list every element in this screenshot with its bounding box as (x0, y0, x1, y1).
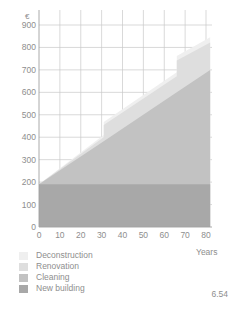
x-tick-label: 10 (55, 230, 64, 240)
x-axis-title: Years (196, 247, 217, 257)
y-tick-label: 400 (6, 132, 36, 142)
area-band-new-building (39, 184, 210, 227)
y-tick-label: 900 (6, 20, 36, 30)
y-tick-label: 300 (6, 155, 36, 165)
y-tick-label: 700 (6, 65, 36, 75)
legend-item: Renovation (19, 261, 93, 272)
legend-swatch-icon (19, 285, 28, 293)
x-tick-label: 40 (118, 230, 127, 240)
legend-item: Deconstruction (19, 250, 93, 261)
legend-item: New building (19, 283, 93, 294)
y-tick-label: 800 (6, 42, 36, 52)
figure-container: € 0100200300400500600700800900 010203040… (0, 0, 237, 311)
legend-label: Deconstruction (36, 250, 93, 261)
x-axis-ticks: 01020304050607080 (0, 230, 237, 244)
plot-area: € 0100200300400500600700800900 010203040… (0, 0, 237, 240)
legend-item: Cleaning (19, 272, 93, 283)
legend-swatch-icon (19, 263, 28, 271)
y-tick-label: 100 (6, 200, 36, 210)
y-tick-label: 500 (6, 110, 36, 120)
y-axis-ticks: 0100200300400500600700800900 (3, 0, 36, 240)
x-tick-label: 70 (180, 230, 189, 240)
legend-label: Renovation (36, 261, 79, 272)
x-tick-label: 80 (201, 230, 210, 240)
legend-swatch-icon (19, 274, 28, 282)
y-tick-label: 600 (6, 87, 36, 97)
chart-legend: DeconstructionRenovationCleaningNew buil… (19, 250, 93, 294)
x-tick-label: 50 (139, 230, 148, 240)
x-tick-label: 20 (76, 230, 85, 240)
x-tick-label: 0 (37, 230, 42, 240)
legend-swatch-icon (19, 252, 28, 260)
x-tick-label: 60 (160, 230, 169, 240)
x-tick-label: 30 (97, 230, 106, 240)
legend-label: New building (36, 283, 85, 294)
area-series-group (39, 37, 210, 227)
legend-label: Cleaning (36, 272, 70, 283)
y-tick-label: 200 (6, 177, 36, 187)
figure-number: 6.54 (211, 289, 228, 299)
